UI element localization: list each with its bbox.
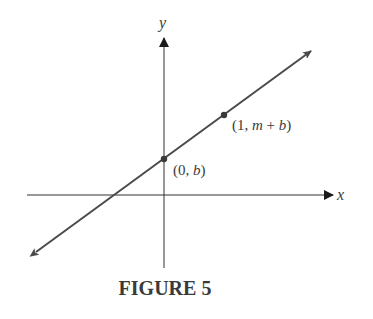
point-1-m-plus-b [221,112,227,118]
point-label-0-b: (0, b) [173,162,206,179]
diagram-canvas [0,0,373,319]
point-label-1-m-plus-b: (1, m + b) [232,117,291,134]
y-axis-label: y [159,14,166,32]
x-axis-label: x [337,186,344,204]
point-0-b [161,156,167,162]
figure-caption: FIGURE 5 [0,277,330,300]
line-y-mx-b [36,51,311,252]
